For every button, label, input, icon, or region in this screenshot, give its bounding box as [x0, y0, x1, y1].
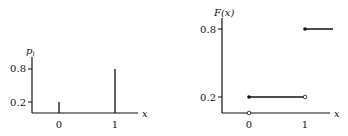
x-axis-label: x	[334, 108, 340, 119]
charts: 0.8 0.2 pi x 0 1 0.8 0.2 F(x) x 0 1	[0, 0, 348, 136]
ytick-label-0.8: 0.8	[200, 24, 216, 35]
cdf-chart: 0.8 0.2 F(x) x 0 1	[200, 7, 340, 130]
ytick-label-0.2: 0.2	[10, 97, 26, 108]
open-point	[303, 95, 307, 99]
y-axis-label: F(x)	[213, 7, 234, 18]
xtick-label-1: 1	[112, 119, 118, 130]
y-axis-label: pi	[26, 45, 35, 58]
x-axis-label: x	[142, 108, 148, 119]
xtick-label-0: 0	[246, 119, 252, 130]
xtick-label-1: 1	[302, 119, 308, 130]
ytick-label-0.8: 0.8	[10, 63, 26, 74]
pmf-chart: 0.8 0.2 pi x 0 1	[10, 45, 148, 130]
closed-point	[247, 95, 251, 99]
ytick-label-0.2: 0.2	[200, 92, 216, 103]
closed-point	[303, 27, 307, 31]
xtick-label-0: 0	[56, 119, 62, 130]
open-point-origin	[247, 111, 251, 115]
